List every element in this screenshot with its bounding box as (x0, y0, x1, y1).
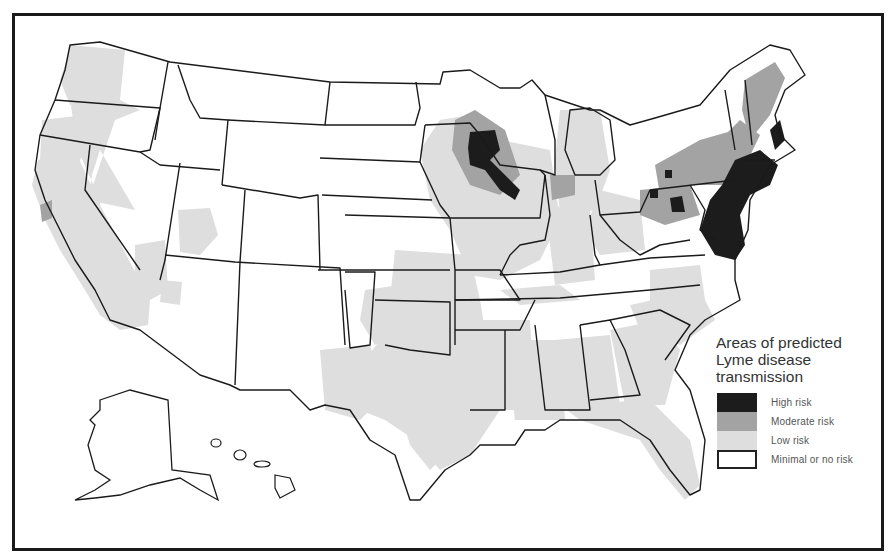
low-risk-swatch (717, 431, 757, 450)
legend-label: Moderate risk (771, 416, 834, 427)
legend-item-low-risk: Low risk (717, 431, 876, 450)
legend-label: Minimal or no risk (771, 454, 853, 465)
legend-item-moderate-risk: Moderate risk (717, 412, 876, 431)
minimal-risk-swatch (717, 450, 757, 469)
us-lyme-risk-map (0, 0, 895, 558)
legend-title-line-1: Areas of predicted (716, 334, 876, 351)
legend-title-line-2: Lyme disease (716, 351, 876, 368)
legend: Areas of predicted Lyme disease transmis… (706, 334, 876, 469)
high-risk-swatch (717, 393, 757, 412)
legend-label: Low risk (771, 435, 809, 446)
legend-title: Areas of predicted Lyme disease transmis… (716, 334, 876, 385)
legend-item-minimal-risk: Minimal or no risk (717, 450, 876, 469)
legend-title-line-3: transmission (716, 368, 876, 385)
moderate-risk-swatch (717, 412, 757, 431)
legend-label: High risk (771, 397, 812, 408)
alaska-outline (75, 390, 218, 500)
legend-item-high-risk: High risk (717, 393, 876, 412)
hawaii-outline (211, 439, 295, 498)
